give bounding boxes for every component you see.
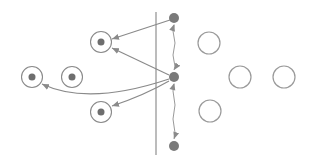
empty-node-lower [199,100,221,122]
empty-node-middle-a [229,66,251,88]
target-nodes [22,32,112,123]
filled-node-middle [169,72,179,82]
empty-node-middle-b [273,66,295,88]
empty-node-upper [198,32,220,54]
edge-fmid-tlower [112,81,169,106]
filled-node-bottom [169,141,179,151]
target-node-upper [91,32,112,53]
filled-node-top [169,13,179,23]
edge-fmid-tupper [112,48,169,75]
empty-nodes [198,32,295,122]
filled-nodes [169,13,179,151]
edge-ftop-tupper [112,20,170,39]
diagram-canvas [0,0,314,162]
edge-ftop-fmid [173,25,175,70]
target-node-left-far [22,67,43,88]
edge-fmid-fbot [173,84,175,139]
target-node-left-near [62,67,83,88]
target-node-lower [91,102,112,123]
